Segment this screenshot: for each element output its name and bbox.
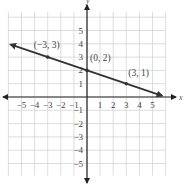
x-tick-label: −2 <box>56 100 66 110</box>
x-tick-label: 4 <box>137 100 142 110</box>
data-point <box>85 69 89 73</box>
x-axis-label: x <box>178 93 183 102</box>
y-tick-label: 4 <box>79 39 84 49</box>
y-tick-label: 3 <box>79 52 84 62</box>
x-tick-label: 5 <box>150 100 155 110</box>
x-tick-label: 2 <box>111 100 116 110</box>
x-tick-label: 1 <box>98 100 103 110</box>
y-tick-label: 1 <box>79 79 84 89</box>
y-tick-label: 5 <box>79 26 84 36</box>
x-tick-label: 3 <box>124 100 129 110</box>
x-tick-label: −3 <box>43 100 53 110</box>
coordinate-plane: xy −5−4−3−2−112345−5−4−3−2−112345 (−3, 3… <box>0 0 185 186</box>
point-label: (0, 2) <box>90 53 111 64</box>
data-point <box>125 82 129 86</box>
point-label: (−3, 3) <box>34 40 60 51</box>
y-tick-label: −3 <box>73 132 83 142</box>
y-axis-label: y <box>85 0 90 5</box>
x-tick-label: −4 <box>30 100 40 110</box>
y-tick-label: −4 <box>73 145 83 155</box>
axes: xy <box>3 0 183 183</box>
y-tick-label: −1 <box>73 105 83 115</box>
x-tick-label: −5 <box>17 100 27 110</box>
point-label: (3, 1) <box>128 68 149 79</box>
data-point <box>46 55 50 59</box>
data-points: (−3, 3)(0, 2)(3, 1) <box>34 40 149 85</box>
y-tick-label: −2 <box>73 119 83 129</box>
y-tick-label: −5 <box>73 159 83 169</box>
